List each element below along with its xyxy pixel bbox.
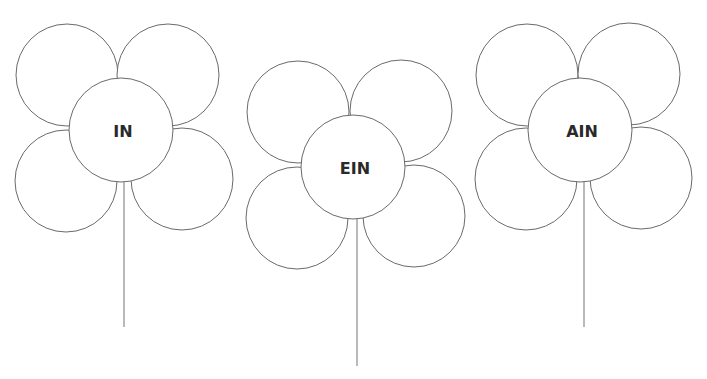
flower-ein: EIN xyxy=(246,60,465,366)
worksheet-canvas: IN EIN AIN xyxy=(0,0,707,379)
flower-center-label: EIN xyxy=(340,159,370,178)
flower-in: IN xyxy=(15,24,233,327)
flower-ain: AIN xyxy=(475,23,692,327)
flower-center-label: IN xyxy=(113,122,132,141)
flower-center-label: AIN xyxy=(566,122,598,141)
